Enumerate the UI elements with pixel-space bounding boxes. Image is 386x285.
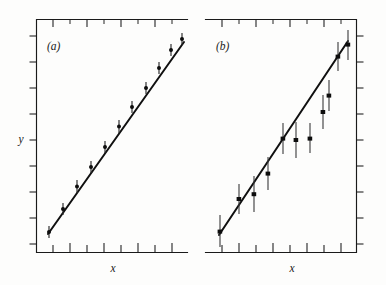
two-panel-scatter-figure: (a) x y — [0, 0, 386, 285]
panel-b-label: (b) — [216, 40, 230, 53]
panel-a-x-axis-label: x — [109, 262, 116, 274]
panel-b-top-ticks — [222, 20, 341, 28]
data-point — [157, 62, 161, 74]
data-point — [47, 226, 51, 238]
panel-b-axis-frame — [206, 20, 357, 253]
data-point — [321, 95, 326, 129]
data-point — [237, 184, 242, 214]
data-point — [346, 30, 351, 60]
panel-b-x-axis-label: x — [288, 262, 295, 274]
panel-a-y-axis-label: y — [17, 133, 24, 146]
data-point — [336, 42, 341, 71]
data-point — [327, 80, 332, 111]
data-point — [169, 44, 173, 56]
data-point — [218, 215, 223, 247]
data-point — [130, 101, 134, 113]
panel-b-data-points — [218, 30, 351, 247]
data-point — [266, 157, 271, 190]
panel-a-x-ticks — [53, 243, 172, 253]
figure-container: (a) x y — [0, 0, 386, 285]
panel-a-top-ticks — [53, 20, 172, 28]
data-point — [294, 122, 299, 158]
data-point — [308, 123, 313, 153]
panel-a-fit-line — [48, 42, 184, 234]
panel-a: (a) x y — [17, 20, 187, 275]
panel-a-label: (a) — [47, 40, 61, 53]
panel-a-y-ticks — [30, 36, 37, 244]
panel-b: (b) x — [206, 20, 364, 275]
data-point — [281, 123, 286, 154]
panel-b-y-ticks — [357, 36, 364, 244]
panel-b-x-ticks — [222, 243, 341, 253]
